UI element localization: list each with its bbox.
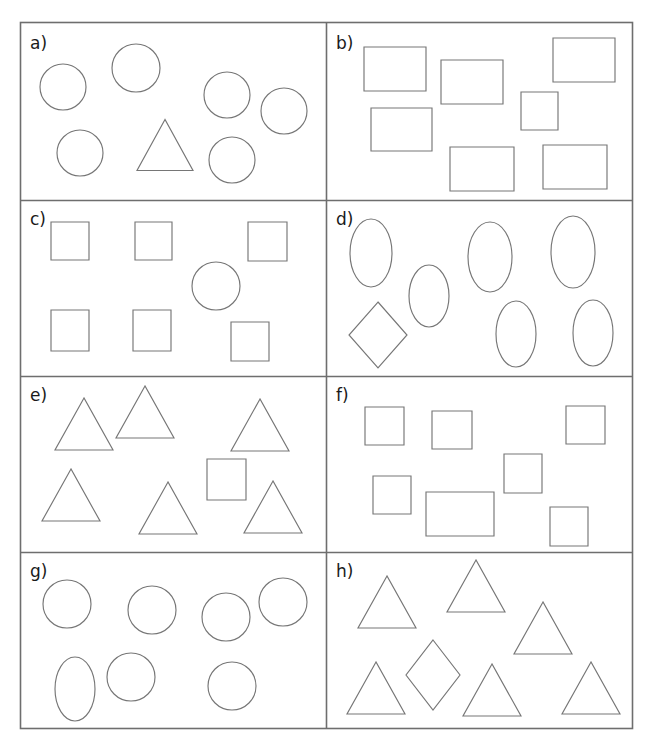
- shape-rect-2: [248, 222, 287, 261]
- shapes-figure: a)b)c)d)e)f)g)h): [0, 0, 649, 748]
- panel-a: a): [30, 33, 307, 183]
- panel-label-c: c): [30, 209, 46, 229]
- panel-b: b): [336, 33, 615, 191]
- shape-rect-0: [51, 222, 89, 260]
- shape-rect-6: [521, 92, 558, 130]
- shape-triangle-1: [116, 386, 174, 438]
- shape-rect-1: [135, 222, 172, 260]
- shape-triangle-1: [447, 560, 505, 612]
- shape-circle-0: [40, 64, 86, 110]
- shape-diamond-6: [406, 640, 460, 710]
- shape-ellipse-2: [468, 222, 512, 292]
- panel-h: h): [336, 560, 620, 716]
- shape-circle-5: [209, 137, 255, 183]
- shape-rect-3: [51, 310, 89, 351]
- shape-rect-2: [566, 406, 605, 444]
- shape-triangle-5: [244, 481, 302, 533]
- shape-rect-1: [441, 60, 503, 104]
- shape-circle-3: [261, 88, 307, 134]
- shape-circle-2: [202, 593, 250, 641]
- panel-d: d): [336, 209, 613, 368]
- panel-e: e): [30, 385, 302, 534]
- shape-triangle-5: [562, 662, 620, 714]
- shape-triangle-4: [463, 664, 521, 716]
- shape-triangle-4: [139, 482, 197, 534]
- panel-label-g: g): [30, 561, 47, 581]
- shape-circle-5: [208, 662, 256, 710]
- shape-circle-1: [112, 44, 160, 92]
- shape-triangle-2: [514, 602, 572, 654]
- shape-circle-4: [57, 130, 103, 176]
- shape-rect-0: [364, 47, 426, 91]
- panel-label-f: f): [336, 385, 349, 405]
- shape-triangle-3: [42, 469, 100, 521]
- panel-label-e: e): [30, 385, 47, 405]
- shape-ellipse-4: [496, 301, 536, 367]
- shape-ellipse-0: [350, 219, 392, 287]
- shape-triangle-0: [358, 576, 416, 628]
- shape-rect-3: [371, 108, 432, 151]
- shape-circle-2: [204, 72, 250, 118]
- shape-rect-2: [553, 38, 615, 82]
- shape-ellipse-5: [573, 300, 613, 366]
- panel-g: g): [30, 561, 307, 721]
- shape-triangle-0: [55, 398, 113, 450]
- panel-label-d: d): [336, 209, 353, 229]
- shape-ellipse-1: [409, 265, 449, 327]
- shape-circle-1: [128, 586, 176, 634]
- panel-c: c): [30, 209, 287, 361]
- shape-rect-5: [543, 145, 607, 189]
- shape-triangle-2: [231, 399, 289, 451]
- shape-circle-0: [43, 580, 91, 628]
- shape-rect-5: [231, 322, 269, 361]
- shape-circle-6: [192, 262, 240, 310]
- shape-triangle-3: [347, 662, 405, 714]
- shape-circle-3: [259, 578, 307, 626]
- panel-label-h: h): [336, 561, 353, 581]
- shape-diamond-6: [349, 302, 407, 368]
- shape-rect-6: [207, 459, 246, 500]
- figure-root: a)b)c)d)e)f)g)h): [0, 0, 649, 748]
- shape-rect-5: [550, 507, 588, 546]
- panel-f: f): [336, 385, 605, 546]
- shape-rect-0: [365, 407, 404, 445]
- shape-rect-6: [426, 492, 494, 536]
- panel-label-a: a): [30, 33, 47, 53]
- shape-ellipse-3: [551, 216, 595, 288]
- shape-ellipse-6: [55, 657, 95, 721]
- shape-rect-3: [373, 476, 411, 514]
- shape-triangle-6: [137, 120, 193, 171]
- shape-rect-4: [504, 454, 542, 493]
- shape-rect-4: [133, 310, 171, 351]
- shape-rect-1: [432, 411, 472, 449]
- shape-rect-4: [450, 147, 514, 191]
- shape-circle-4: [107, 653, 155, 701]
- panel-label-b: b): [336, 33, 353, 53]
